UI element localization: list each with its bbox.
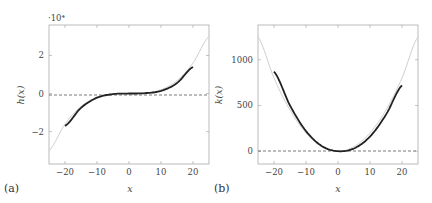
x-tick-label: −20 (56, 167, 74, 177)
y-axis-label-b: k(x) (213, 85, 224, 104)
reference-curve-b (258, 37, 418, 151)
plot-frame-a (49, 25, 209, 164)
fit-curve-a (65, 67, 193, 126)
y-tick-label: 2 (39, 50, 44, 60)
x-tick-label: 20 (397, 167, 408, 177)
x-axis-label-a: x (127, 183, 133, 194)
x-tick-label: 10 (365, 167, 376, 177)
x-tick-label: 0 (126, 167, 131, 177)
axis-ticks-a: −20−1001020−202 (31, 25, 209, 177)
x-tick-label: −10 (297, 167, 315, 177)
panel-label-a: (a) (4, 182, 19, 195)
y-tick-label: 0 (39, 89, 44, 99)
x-tick-label: 20 (188, 167, 199, 177)
x-tick-label: 10 (156, 167, 167, 177)
y-tick-label: 500 (237, 100, 253, 110)
panel-label-b: (b) (214, 182, 230, 195)
panel-a: −20−1001020−202 ·10⁴ h(x) x (a) (4, 13, 209, 195)
y-tick-label: −2 (31, 127, 44, 137)
x-tick-label: −10 (88, 167, 106, 177)
y-tick-label: 1000 (231, 55, 253, 65)
y-tick-label: 0 (248, 146, 253, 156)
axis-ticks-b: −20−100102005001000 (231, 25, 418, 177)
x-tick-label: −20 (265, 167, 283, 177)
panel-b: −20−100102005001000 k(x) x (b) (213, 25, 418, 195)
x-tick-label: 0 (335, 167, 340, 177)
y-scale-note: ·10⁴ (48, 13, 66, 23)
y-axis-label-a: h(x) (15, 85, 26, 104)
x-axis-label-b: x (335, 183, 341, 194)
figure: −20−1001020−202 ·10⁴ h(x) x (a) −20−1001… (0, 0, 432, 203)
fit-curve-b (274, 72, 402, 152)
